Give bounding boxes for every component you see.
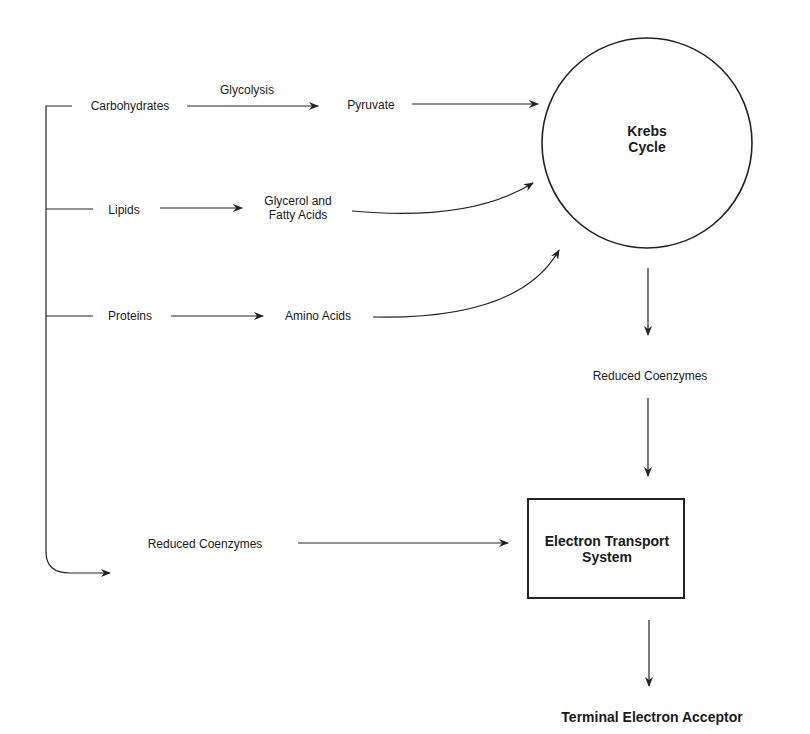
krebs-line-2: Cycle <box>627 139 667 155</box>
bracket-line <box>46 106 110 573</box>
label-pyruvate: Pyruvate <box>347 98 394 112</box>
label-terminal-electron-acceptor: Terminal Electron Acceptor <box>561 709 742 725</box>
label-glycerol-fatty-acids: Glycerol and Fatty Acids <box>264 194 331 222</box>
glycerol-line-1: Glycerol and <box>264 194 331 208</box>
label-krebs-cycle: Krebs Cycle <box>627 123 667 155</box>
krebs-line-1: Krebs <box>627 123 667 139</box>
label-lipids: Lipids <box>108 203 139 217</box>
ets-line-2: System <box>545 549 669 565</box>
label-reduced-coenzymes-left: Reduced Coenzymes <box>148 537 263 551</box>
glycerol-line-2: Fatty Acids <box>264 208 331 222</box>
label-proteins: Proteins <box>108 309 152 323</box>
label-glycolysis: Glycolysis <box>220 83 274 97</box>
label-reduced-coenzymes-mid: Reduced Coenzymes <box>593 369 708 383</box>
label-carbohydrates: Carbohydrates <box>91 99 170 113</box>
ets-line-1: Electron Transport <box>545 533 669 549</box>
label-electron-transport-system: Electron Transport System <box>545 533 669 565</box>
label-amino-acids: Amino Acids <box>285 309 351 323</box>
